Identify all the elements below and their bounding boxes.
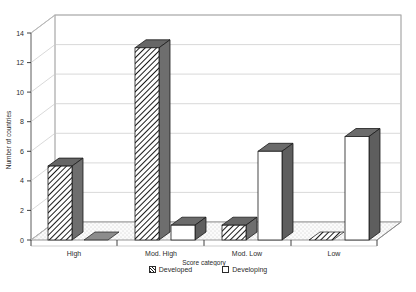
x-category-label-mod-high: Mod. High [145, 250, 177, 258]
y-axis: 0 2 4 6 8 10 12 14 Number of countries [5, 30, 31, 244]
legend-entry-developed[interactable]: Developed [149, 266, 192, 273]
x-category-label-high: High [67, 250, 82, 258]
y-tick-label-4: 4 [20, 177, 24, 184]
bar-low-developing [345, 129, 380, 241]
y-axis-title: Number of countries [5, 110, 12, 169]
bar-chart-plot: 0 2 4 6 8 10 12 14 Number of countries [0, 0, 416, 266]
x-axis-title: Score category [182, 259, 226, 266]
chart-container: 0 2 4 6 8 10 12 14 Number of countries [0, 0, 416, 292]
x-axis: High Mod. High Mod. Low Low Score catego… [31, 240, 377, 266]
bar-mod-high-developed [135, 40, 170, 240]
y-tick-label-14: 14 [16, 30, 24, 37]
bar-high-developed [48, 158, 83, 240]
chart-legend: Developed Developing [0, 266, 416, 273]
y-tick-label-8: 8 [20, 118, 24, 125]
y-tick-label-0: 0 [20, 237, 24, 244]
legend-label-developing: Developing [232, 266, 267, 273]
white-swatch-icon [222, 266, 229, 273]
x-category-label-low: Low [328, 250, 342, 257]
legend-label-developed: Developed [159, 266, 192, 273]
x-category-label-mod-low: Mod. Low [232, 250, 263, 257]
legend-entry-developing[interactable]: Developing [222, 266, 267, 273]
y-tick-label-12: 12 [16, 59, 24, 66]
y-tick-label-2: 2 [20, 207, 24, 214]
hatched-swatch-icon [149, 266, 156, 273]
bar-mod-low-developing [258, 143, 293, 240]
y-tick-label-6: 6 [20, 148, 24, 155]
y-tick-label-10: 10 [16, 89, 24, 96]
